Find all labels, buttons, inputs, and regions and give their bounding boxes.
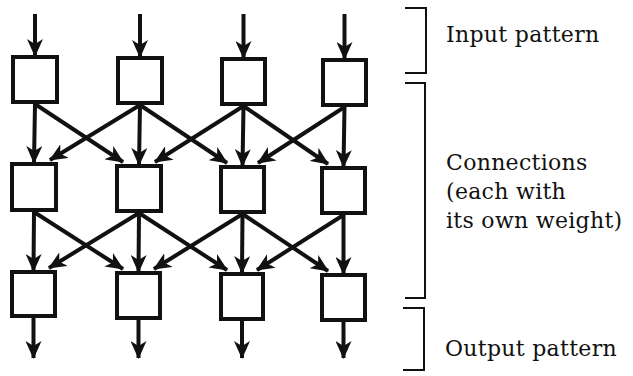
connection-1-3-2 <box>257 215 344 270</box>
hidden-unit-4 <box>322 168 365 213</box>
connection-1-1-2 <box>139 213 227 270</box>
input-unit-2 <box>118 58 162 103</box>
input-unit-4 <box>323 60 366 105</box>
hidden-unit-1 <box>12 164 56 210</box>
connection-0-3-2 <box>258 107 345 163</box>
output-unit-1 <box>12 272 55 316</box>
connection-1-0-1 <box>34 212 123 269</box>
input-unit-3 <box>222 59 265 104</box>
connection-0-1-2 <box>140 105 227 163</box>
hidden-unit-3 <box>221 167 264 212</box>
output-unit-4 <box>322 275 365 320</box>
hidden-unit-2 <box>117 166 161 211</box>
input-unit-1 <box>13 57 57 102</box>
input-pattern-label: Input pattern <box>446 20 599 49</box>
input-arrows <box>35 14 345 59</box>
output-unit-2 <box>117 273 160 318</box>
output-bracket <box>403 308 424 370</box>
connection-1-1-1 <box>139 213 140 272</box>
connections-bracket <box>405 83 425 298</box>
connections-label-line1: Connections <box>446 148 588 177</box>
connection-0-2-3 <box>244 106 329 164</box>
connection-0-1-1 <box>139 105 140 165</box>
connection-arrows <box>34 104 345 274</box>
connection-1-2-3 <box>243 214 329 271</box>
connection-0-3-3 <box>344 107 345 167</box>
connection-0-2-2 <box>243 106 244 166</box>
connection-0-0-0 <box>34 104 35 163</box>
connection-0-1-0 <box>50 105 140 160</box>
connection-1-2-1 <box>154 214 243 269</box>
output-pattern-label: Output pattern <box>445 334 617 363</box>
brackets <box>403 8 426 370</box>
connections-label-line2: (each with <box>446 177 566 206</box>
units <box>12 57 366 320</box>
connection-1-0-0 <box>34 212 35 271</box>
connection-1-2-2 <box>242 214 243 273</box>
connection-1-1-0 <box>49 213 139 268</box>
connection-0-0-1 <box>35 104 123 162</box>
output-unit-3 <box>221 274 263 319</box>
output-arrows <box>34 318 344 358</box>
connections-label-line3: its own weight) <box>446 206 622 235</box>
input-bracket <box>405 8 426 73</box>
connection-0-2-1 <box>155 106 244 162</box>
